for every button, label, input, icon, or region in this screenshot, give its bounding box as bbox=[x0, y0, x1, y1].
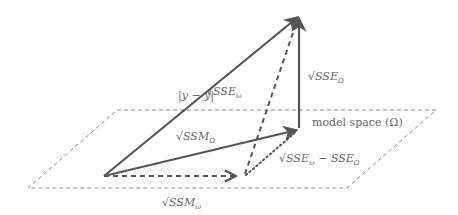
label-model-space: model space (Ω) bbox=[312, 116, 403, 129]
sse-small-omega-vector bbox=[245, 18, 298, 174]
label-sse-diff: √SSEω − SSEΩ bbox=[279, 152, 360, 167]
label-ssm-big-omega: √SSMΩ bbox=[176, 130, 215, 145]
label-sse-big-omega: √SSEΩ bbox=[308, 70, 344, 85]
label-sse-small-omega: √SSEω bbox=[206, 85, 242, 100]
label-ssm-small-omega: √SSMω bbox=[162, 196, 201, 211]
diagram-canvas: |y − ȳ| √SSEω √SSEΩ √SSMΩ √SSMω √SSEω − … bbox=[0, 0, 458, 215]
